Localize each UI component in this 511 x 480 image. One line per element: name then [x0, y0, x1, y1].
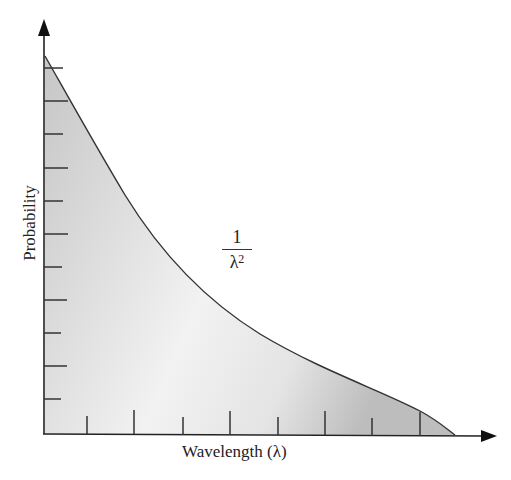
formula-denominator: λ2	[222, 252, 252, 272]
y-axis-label: Probability	[20, 173, 40, 273]
curve-formula-annotation: 1 λ2	[222, 227, 252, 272]
x-axis-arrow-icon	[481, 430, 497, 442]
fraction-bar	[222, 249, 252, 250]
formula-exponent: 2	[238, 252, 244, 266]
chart-canvas	[0, 0, 511, 480]
x-axis-label: Wavelength (λ)	[182, 442, 287, 462]
y-axis-arrow-icon	[38, 19, 50, 36]
formula-numerator: 1	[222, 227, 252, 247]
